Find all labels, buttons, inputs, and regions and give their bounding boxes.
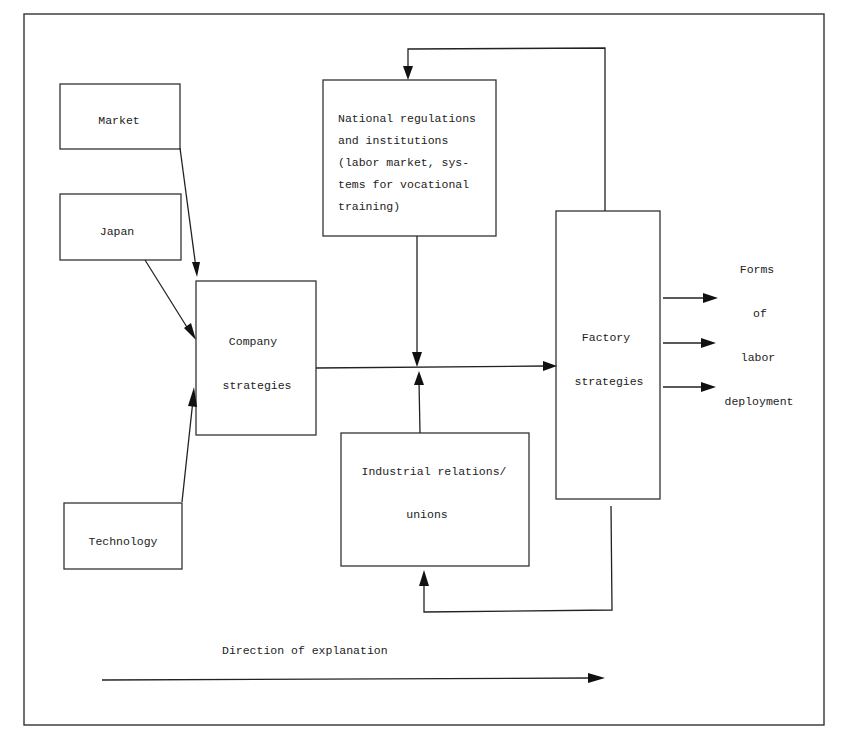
node-factory-line-1: Factory [582, 331, 630, 344]
node-forms-of-labor-deployment: Forms of labor deployment [724, 263, 793, 408]
node-forms-line-2: of [753, 307, 767, 320]
node-technology-label: Technology [88, 535, 157, 548]
arrow-factory-to-forms-1 [663, 293, 718, 303]
node-market-label: Market [98, 114, 139, 127]
node-industrial-line-1: Industrial relations/ [362, 465, 507, 478]
node-company-line-1: Company [229, 335, 277, 348]
arrow-factory-to-forms-2 [663, 338, 716, 348]
node-company-strategies: Company strategies [196, 281, 316, 435]
arrow-industrial-to-link [414, 371, 424, 433]
node-japan: Japan [60, 194, 181, 260]
node-national-line-3: (labor market, sys- [338, 156, 469, 169]
arrowhead-icon [419, 570, 429, 586]
arrowhead-icon [588, 673, 605, 683]
node-japan-label: Japan [100, 225, 135, 238]
arrow-national-to-link [412, 236, 422, 367]
labor-deployment-diagram: Market Japan Technology Company strategi… [0, 0, 844, 741]
node-national-line-2: and institutions [338, 134, 448, 147]
node-forms-line-3: labor [741, 351, 776, 364]
direction-of-explanation-label: Direction of explanation [222, 644, 388, 657]
arrowhead-icon [192, 262, 200, 277]
arrowhead-icon [403, 66, 413, 80]
arrowhead-icon [701, 382, 716, 392]
node-industrial-line-2: unions [406, 508, 447, 521]
node-company-line-2: strategies [222, 379, 291, 392]
arrowhead-icon [543, 361, 557, 371]
node-market: Market [60, 84, 180, 149]
node-national-line-5: training) [338, 200, 400, 213]
arrowhead-icon [412, 352, 422, 367]
node-factory-strategies: Factory strategies [556, 211, 660, 499]
node-industrial-relations: Industrial relations/ unions [341, 433, 529, 566]
node-forms-line-4: deployment [724, 395, 793, 408]
node-national-line-1: National regulations [338, 112, 476, 125]
arrow-technology-to-company [182, 387, 197, 502]
arrow-factory-to-forms-3 [663, 382, 716, 392]
node-technology: Technology [64, 503, 182, 569]
node-forms-line-1: Forms [740, 263, 775, 276]
node-national-line-4: tems for vocational [338, 178, 469, 191]
arrow-company-to-factory [316, 361, 557, 371]
arrowhead-icon [703, 293, 718, 303]
arrow-market-to-company [180, 148, 200, 277]
arrowhead-icon [414, 371, 424, 385]
node-factory-line-2: strategies [574, 375, 643, 388]
node-national-regulations: National regulations and institutions (l… [323, 80, 496, 236]
arrow-japan-to-company [145, 260, 196, 340]
arrowhead-icon [701, 338, 716, 348]
direction-of-explanation-arrow [102, 673, 605, 683]
